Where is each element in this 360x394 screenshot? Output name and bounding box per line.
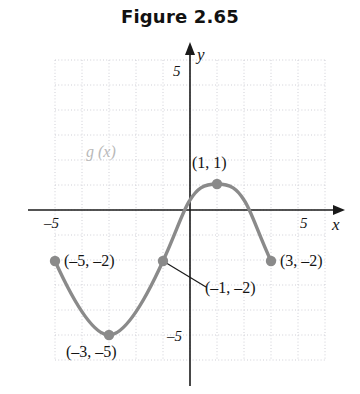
point-label-3-neg2: (3, –2) — [280, 253, 323, 269]
x-tick-label-right: 5 — [300, 216, 308, 231]
point-neg1-neg2 — [158, 256, 168, 266]
point-label-neg1-neg2: (–1, –2) — [205, 280, 256, 296]
y-tick-label-bottom: –5 — [167, 329, 182, 344]
point-1-1 — [212, 179, 222, 189]
figure-title: Figure 2.65 — [0, 6, 360, 27]
function-name-label: g (x) — [86, 144, 116, 160]
point-neg3-neg5 — [104, 330, 114, 340]
point-label-1-1: (1, 1) — [192, 155, 227, 171]
point-neg5-neg2 — [50, 256, 60, 266]
point-3-neg2 — [266, 256, 276, 266]
plot-area: –5 5 5 –5 x y g (x) (1, 1) (3, –2) (–5, … — [0, 34, 360, 394]
y-axis-name: y — [197, 46, 205, 63]
point-label-neg3-neg5: (–3, –5) — [66, 344, 117, 360]
x-tick-label-left: –5 — [44, 216, 59, 231]
y-axis — [185, 42, 195, 386]
leader-line-neg1 — [163, 261, 206, 287]
y-tick-label-top: 5 — [173, 64, 181, 79]
figure-container: Figure 2.65 — [0, 0, 360, 394]
point-label-neg5-neg2: (–5, –2) — [64, 253, 115, 269]
x-axis-name: x — [332, 216, 340, 233]
